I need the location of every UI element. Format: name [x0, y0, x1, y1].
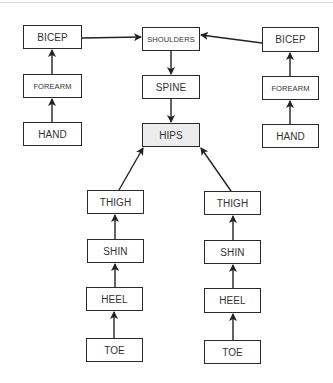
node-bicep-right: BICEP	[262, 27, 319, 52]
node-shin-left: SHIN	[87, 239, 144, 263]
edge-thigh-hips-left	[119, 148, 143, 190]
node-hand-right: HAND	[262, 124, 319, 148]
node-heel-left: HEEL	[86, 287, 143, 311]
node-forearm-right: FOREARM	[262, 76, 319, 100]
node-toe-right: TOE	[204, 340, 261, 364]
node-thigh-left: THIGH	[87, 190, 144, 214]
node-thigh-right: THIGH	[204, 191, 261, 215]
node-toe-left: TOE	[86, 338, 143, 362]
node-forearm-left: FOREARM	[23, 74, 82, 98]
node-spine: SPINE	[142, 75, 200, 99]
node-bicep-left: BICEP	[23, 25, 82, 49]
node-hips: HIPS	[142, 123, 200, 147]
edge-bicep-shoulders-left	[82, 37, 141, 38]
node-heel-right: HEEL	[204, 288, 261, 313]
node-shoulders: SHOULDERS	[142, 27, 200, 51]
edge-thigh-hips-right	[201, 148, 231, 191]
edges-layer	[0, 0, 333, 383]
node-hand-left: HAND	[23, 122, 82, 146]
node-shin-right: SHIN	[204, 240, 261, 264]
edge-bicep-shoulders-right	[201, 35, 262, 43]
